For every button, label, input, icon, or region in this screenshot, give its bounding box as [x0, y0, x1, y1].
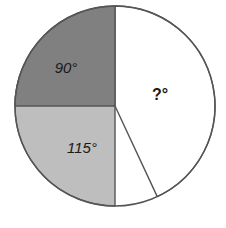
pie-chart-figure: ?° 115° 90°	[0, 0, 226, 228]
pie-label-unknown: ?°	[152, 86, 168, 103]
pie-label-90: 90°	[55, 59, 78, 76]
pie-label-115: 115°	[67, 139, 97, 156]
